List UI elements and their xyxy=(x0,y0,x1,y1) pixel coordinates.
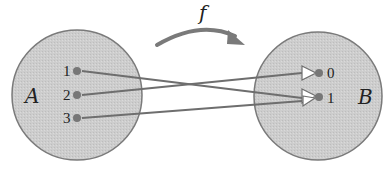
element-label-0: 0 xyxy=(327,65,335,81)
element-dot-1 xyxy=(73,67,81,75)
element-label-3: 3 xyxy=(63,110,71,126)
function-diagram: A B f 1 2 3 0 1 xyxy=(0,0,391,181)
set-b-label: B xyxy=(357,85,373,109)
element-dot-3 xyxy=(73,114,81,122)
function-arrow: f xyxy=(157,1,245,45)
curved-arrow-icon xyxy=(157,30,235,45)
function-label: f xyxy=(197,1,210,25)
set-a-label: A xyxy=(23,84,39,108)
element-label-b1: 1 xyxy=(327,90,335,106)
element-dot-2 xyxy=(73,91,81,99)
element-label-2: 2 xyxy=(63,87,71,103)
element-dot-b1 xyxy=(315,93,323,101)
element-dot-0 xyxy=(315,69,323,77)
element-label-1: 1 xyxy=(63,63,71,79)
arrowhead-icon xyxy=(227,30,245,45)
